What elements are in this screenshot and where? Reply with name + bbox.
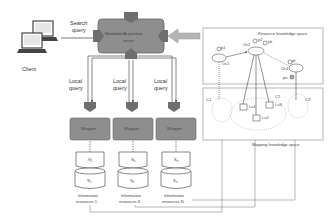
cluster-c2: C2 — [275, 94, 281, 99]
source-k-line1: Information — [121, 193, 141, 198]
node-pn: pn — [283, 75, 287, 80]
architecture-diagram: Client Search query Mediation/Acquisitio… — [0, 0, 328, 224]
wrapper-3 — [156, 102, 196, 140]
mapping-lu3: Lu3 — [275, 102, 282, 107]
double-arrow — [168, 29, 200, 43]
node-p2: p2 — [258, 37, 263, 42]
source-k-line2: resources K — [119, 199, 141, 204]
node-pk: pk — [268, 39, 272, 44]
local-query-1-line2: query — [69, 85, 83, 91]
server-label-1: Mediation/Acquisition — [105, 31, 143, 36]
mapping-lu2: Lu2 — [262, 115, 269, 120]
local-query-3-line1: Local — [154, 78, 167, 84]
source-n-line2: resources N — [162, 199, 184, 204]
source-n-line1: Information — [164, 193, 184, 198]
search-query-label-2: query — [72, 27, 86, 33]
source-1-line1: Information — [78, 193, 98, 198]
client-label: Client — [22, 66, 37, 72]
cluster-c1: C1 — [206, 97, 212, 102]
mapping-space-title: Mapping knowledge space — [252, 142, 300, 147]
wrapper-2-label: Wrapper — [124, 126, 140, 131]
mapping-knowledge-space — [203, 88, 323, 140]
laptop-icon — [17, 21, 58, 53]
node-oc1: Oc1 — [222, 61, 230, 66]
mapping-lu1: Lu1 — [249, 104, 256, 109]
search-query-label-1: Search — [70, 20, 87, 26]
node-oc2: Oc2 — [243, 42, 251, 47]
wrapper-1 — [70, 102, 110, 140]
server-label-2: server — [123, 38, 135, 43]
wrapper-1-label: Wrapper — [81, 126, 97, 131]
node-oc4: Oc4 — [281, 66, 289, 71]
wrapper-2 — [113, 102, 153, 140]
source-1-line2: resources 1 — [76, 199, 98, 204]
resource-space-title: Resource knowledge space — [258, 31, 308, 36]
local-query-2-line1: Local — [113, 78, 126, 84]
local-query-3-line2: query — [154, 85, 168, 91]
cluster-c3: C3 — [305, 97, 311, 102]
local-query-1-line1: Local — [69, 78, 82, 84]
node-p1: p1 — [221, 45, 226, 50]
wrapper-3-label: Wrapper — [167, 126, 183, 131]
local-query-2-line2: query — [113, 85, 127, 91]
